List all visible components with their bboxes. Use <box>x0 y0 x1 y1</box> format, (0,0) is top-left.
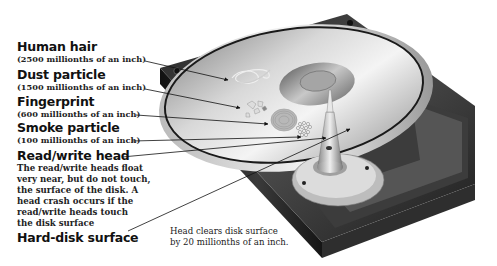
fingerprint-illustration <box>271 109 297 131</box>
label-hard-disk-surface: Hard-disk surface <box>17 231 138 245</box>
label-title: Fingerprint <box>17 95 140 109</box>
head-clearance-caption: Head clears disk surface by 20 millionth… <box>170 226 289 248</box>
description-line: the disk surface <box>17 218 187 229</box>
label-read-write-head: Read/write head The read/write heads flo… <box>17 149 187 229</box>
label-description: The read/write heads float very near, bu… <box>17 163 187 229</box>
description-line: very near, but do not touch, <box>17 174 187 185</box>
description-line: head crash occurs if the <box>17 196 187 207</box>
description-line: the surface of the disk. A <box>17 185 187 196</box>
caption-line: Head clears disk surface <box>170 226 289 237</box>
label-title: Dust particle <box>17 68 146 82</box>
label-size: (100 millionths of an inch) <box>17 135 140 145</box>
label-title: Read/write head <box>17 149 187 163</box>
label-dust-particle: Dust particle (1500 millionths of an inc… <box>17 68 146 92</box>
label-title: Human hair <box>17 40 146 54</box>
label-title: Smoke particle <box>17 121 140 135</box>
screw-hole-icon <box>347 20 353 26</box>
label-human-hair: Human hair (2500 millionths of an inch) <box>17 40 146 64</box>
label-size: (1500 millionths of an inch) <box>17 82 146 92</box>
description-line: The read/write heads float <box>17 163 187 174</box>
label-size: (600 millionths of an inch) <box>17 109 140 119</box>
label-fingerprint: Fingerprint (600 millionths of an inch) <box>17 95 140 119</box>
caption-line: by 20 millionths of an inch. <box>170 237 289 248</box>
label-title: Hard-disk surface <box>17 231 138 245</box>
label-size: (2500 millionths of an inch) <box>17 54 146 64</box>
description-line: read/write heads touch <box>17 207 187 218</box>
label-smoke-particle: Smoke particle (100 millionths of an inc… <box>17 121 140 145</box>
